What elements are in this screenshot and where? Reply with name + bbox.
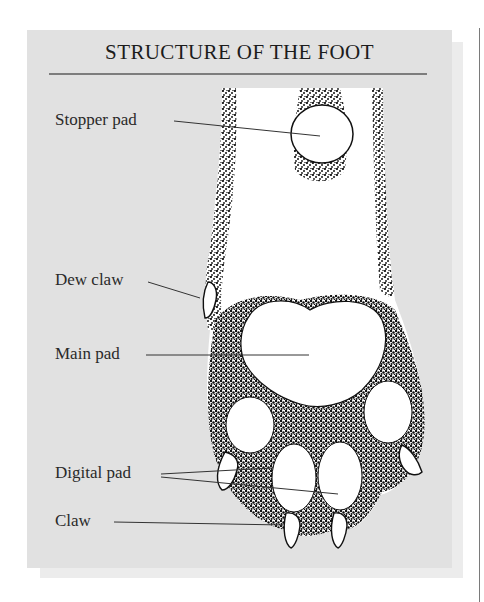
label-stopper-pad: Stopper pad: [55, 110, 137, 130]
label-claw: Claw: [55, 511, 91, 531]
label-digital-pad: Digital pad: [55, 463, 131, 483]
label-dew-claw: Dew claw: [55, 270, 123, 290]
label-main-pad: Main pad: [55, 344, 120, 364]
